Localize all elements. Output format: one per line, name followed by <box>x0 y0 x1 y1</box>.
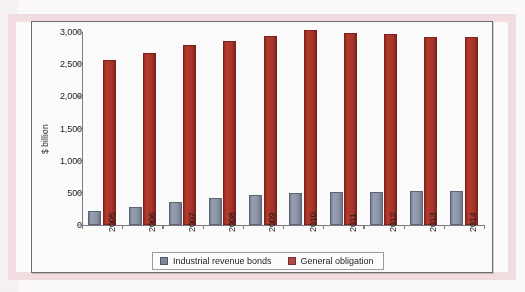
y-axis-tick-label: 1,000 <box>42 156 82 166</box>
bar-general-obligation <box>465 37 478 225</box>
bar-industrial-revenue-bonds <box>410 191 423 225</box>
x-axis-tickmark <box>243 225 244 229</box>
y-axis-tick-label: 3,000 <box>42 27 82 37</box>
x-axis-tickmark <box>444 225 445 229</box>
legend-swatch-icon <box>288 257 296 265</box>
bar-general-obligation <box>103 60 116 225</box>
y-axis-tick-label: 500 <box>42 188 82 198</box>
bar-industrial-revenue-bonds <box>249 195 262 225</box>
x-axis-tick-label: 2005 <box>107 212 117 232</box>
x-axis-tickmark <box>484 225 485 229</box>
x-axis-tickmark <box>363 225 364 229</box>
x-axis-tick-label: 2006 <box>147 212 157 232</box>
chart-plot-wrapper: $ billion 05001,0001,5002,0002,5003,0002… <box>32 22 492 272</box>
bar-general-obligation <box>264 36 277 225</box>
bar-general-obligation <box>183 45 196 225</box>
legend-item[interactable]: General obligation <box>288 256 374 266</box>
bars-container <box>82 32 484 225</box>
bar-industrial-revenue-bonds <box>88 211 101 225</box>
legend-item-label: Industrial revenue bonds <box>173 256 272 266</box>
y-axis-tick-label: 1,500 <box>42 124 82 134</box>
x-axis-tickmark <box>82 225 83 229</box>
y-axis-tick-label: 2,500 <box>42 59 82 69</box>
bar-general-obligation <box>304 30 317 225</box>
bar-general-obligation <box>384 34 397 225</box>
bar-industrial-revenue-bonds <box>129 207 142 225</box>
chart-legend: Industrial revenue bondsGeneral obligati… <box>152 252 384 270</box>
bar-general-obligation <box>424 37 437 225</box>
bar-industrial-revenue-bonds <box>330 192 343 225</box>
chart-frame: $ billion 05001,0001,5002,0002,5003,0002… <box>31 21 493 273</box>
x-axis-tickmark <box>203 225 204 229</box>
x-axis-tickmark <box>283 225 284 229</box>
bar-general-obligation <box>344 33 357 225</box>
legend-item[interactable]: Industrial revenue bonds <box>160 256 272 266</box>
bar-industrial-revenue-bonds <box>169 202 182 225</box>
y-axis-tick-label: 2,000 <box>42 91 82 101</box>
x-axis-tick-label: 2009 <box>267 212 277 232</box>
x-axis-tick-label: 2007 <box>187 212 197 232</box>
bar-industrial-revenue-bonds <box>370 192 383 225</box>
x-axis-tick-label: 2011 <box>348 213 358 232</box>
x-axis-tickmark <box>404 225 405 229</box>
x-axis-tick-label: 2012 <box>388 212 398 232</box>
x-axis-tick-label: 2014 <box>468 212 478 232</box>
x-axis-tickmark <box>162 225 163 229</box>
page-root: $ billion 05001,0001,5002,0002,5003,0002… <box>0 0 525 292</box>
legend-swatch-icon <box>160 257 168 265</box>
bar-industrial-revenue-bonds <box>209 198 222 225</box>
x-axis-tickmark <box>323 225 324 229</box>
y-axis-tick-labels: 05001,0001,5002,0002,5003,000 <box>38 22 82 272</box>
bar-general-obligation <box>143 53 156 225</box>
x-axis-tick-label: 2013 <box>428 212 438 232</box>
legend-item-label: General obligation <box>301 256 374 266</box>
x-axis-tickmark <box>122 225 123 229</box>
x-axis-tick-label: 2008 <box>227 212 237 232</box>
y-axis-tick-label: 0 <box>42 220 82 230</box>
bar-industrial-revenue-bonds <box>289 193 302 225</box>
bar-general-obligation <box>223 41 236 225</box>
x-axis-tick-label: 2010 <box>308 212 318 232</box>
bar-industrial-revenue-bonds <box>450 191 463 225</box>
